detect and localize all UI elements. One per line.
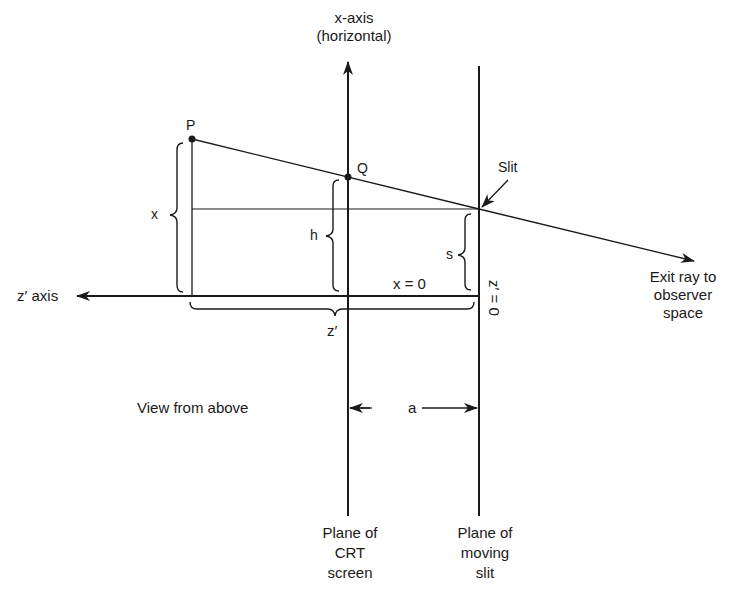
- brace-h: [326, 180, 339, 291]
- exit-ray-arrow: [479, 209, 694, 261]
- slit-label: Slit: [498, 159, 517, 176]
- point-q: [345, 174, 352, 181]
- z-zero-label: z′ = 0: [486, 280, 503, 316]
- brace-z-prime: [190, 302, 474, 316]
- x-axis-label: x-axis (horizontal): [316, 9, 391, 45]
- slit-pointer-arrow: [482, 180, 508, 207]
- view-title: View from above: [137, 399, 248, 416]
- crt-plane-label: Plane of CRT screen: [322, 523, 377, 583]
- brace-s: [458, 214, 471, 290]
- light-ray: [192, 139, 479, 209]
- dimension-z-prime-label: z′: [327, 322, 337, 339]
- dimension-x-label: x: [151, 206, 158, 223]
- dimension-h-label: h: [310, 227, 318, 244]
- dimension-s-label: s: [446, 246, 453, 263]
- point-q-label: Q: [357, 160, 368, 177]
- x-zero-label: x = 0: [393, 275, 426, 292]
- exit-ray-label: Exit ray to observer space: [650, 268, 717, 322]
- diagram-canvas: [0, 0, 750, 602]
- slit-plane-label: Plane of moving slit: [457, 523, 512, 583]
- z-axis-label: z′ axis: [17, 287, 58, 304]
- point-p-label: P: [186, 117, 195, 134]
- brace-x: [170, 143, 183, 292]
- dimension-a-label: a: [408, 399, 416, 416]
- point-p: [189, 136, 196, 143]
